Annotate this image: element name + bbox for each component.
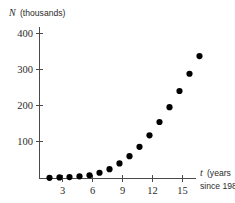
- data-point: [46, 175, 52, 181]
- y-axis-title-units: (thousands): [20, 8, 66, 18]
- x-axis-title-variable: t: [200, 167, 203, 178]
- scatter-plot: N (thousands) 400 300 200 100 3 6 9 12 1…: [0, 0, 235, 203]
- data-point: [176, 88, 182, 94]
- data-point-series: [46, 53, 202, 181]
- y-tick-label-400: 400: [17, 28, 33, 39]
- data-point: [86, 172, 92, 178]
- data-point: [186, 71, 192, 77]
- x-tick-label-6: 6: [90, 185, 95, 196]
- y-tick-label-100: 100: [17, 136, 33, 147]
- x-axis-title-units-line1: (years: [207, 168, 231, 178]
- x-tick-label-12: 12: [147, 185, 158, 196]
- data-point: [66, 174, 72, 180]
- data-point: [126, 153, 132, 159]
- data-point: [196, 53, 202, 59]
- data-point: [166, 104, 172, 110]
- data-point: [116, 160, 122, 166]
- x-tick-label-15: 15: [177, 185, 188, 196]
- y-axis-title-variable: N: [8, 7, 17, 18]
- data-point: [96, 170, 102, 176]
- x-axis-title-units-line2: since 1980): [200, 181, 235, 191]
- data-point: [146, 132, 152, 138]
- data-point: [136, 144, 142, 150]
- y-tick-label-200: 200: [17, 100, 33, 111]
- x-tick-label-9: 9: [120, 185, 125, 196]
- data-point: [106, 166, 112, 172]
- data-point: [56, 174, 62, 180]
- data-point: [156, 119, 162, 125]
- chart-figure: N (thousands) 400 300 200 100 3 6 9 12 1…: [0, 0, 235, 203]
- x-tick-label-3: 3: [60, 185, 65, 196]
- y-tick-label-300: 300: [17, 64, 33, 75]
- data-point: [76, 173, 82, 179]
